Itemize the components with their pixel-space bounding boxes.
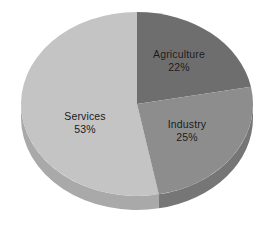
pie-top-faces bbox=[21, 12, 253, 196]
pie-chart-svg bbox=[0, 0, 265, 233]
pie-chart: Agriculture 22% Industry 25% Services 53… bbox=[0, 0, 265, 233]
